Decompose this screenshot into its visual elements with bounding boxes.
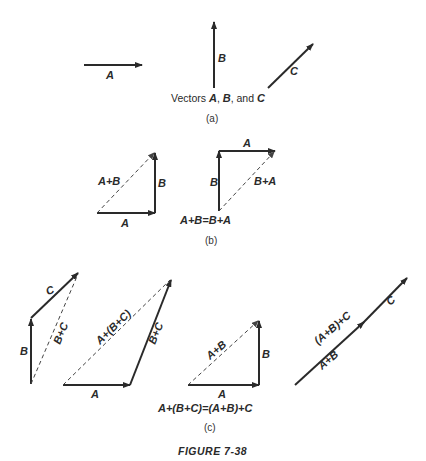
vector-b-label: B	[218, 52, 226, 64]
b-right-b-label: B	[210, 176, 218, 188]
panel-b-equation: A+B=B+A	[179, 214, 231, 226]
vector-a-label: A	[105, 69, 114, 81]
c4-c-label: C	[384, 293, 399, 308]
b-right-sum-label: B+A	[254, 175, 276, 187]
b-left-b-label: B	[158, 177, 166, 189]
c2-a-label: A	[90, 388, 99, 400]
c3-a-label: A	[217, 388, 226, 400]
vector-addition-figure: A B C Vectors A, B, and C (a) A B A+B A …	[0, 0, 426, 461]
c1-b-label: B	[20, 345, 28, 357]
c3-sum-label: A+B	[203, 338, 229, 362]
panel-a-caption: Vectors A, B, and C	[171, 92, 266, 104]
figure-title: FIGURE 7-38	[178, 445, 247, 457]
panel-a-label: (a)	[206, 113, 218, 124]
b-right-a-label: A	[242, 137, 251, 149]
c1-sum-label: B+C	[51, 320, 71, 346]
c2-bc-label: B+C	[146, 320, 166, 346]
c4-sum-label: (A+B)+C	[312, 308, 354, 346]
panel-b: A B A+B A B B+A A+B=B+A (b)	[97, 137, 276, 246]
panel-c-equation: A+(B+C)=(A+B)+C	[157, 402, 253, 414]
panel-c: B C B+C A B+C A+(B+C) A B A+B A+B (A+B)+…	[20, 273, 407, 433]
vector-c-label: C	[290, 65, 299, 77]
c2-sum-label: A+(B+C)	[92, 307, 133, 347]
c4-vector-c	[362, 278, 407, 324]
panel-c-label: (c)	[204, 422, 216, 433]
c4-ab-label: A+B	[315, 348, 341, 372]
c3-b-label: B	[262, 348, 270, 360]
c1-vector-c	[31, 273, 78, 318]
c1-sum-dashed	[31, 274, 78, 384]
c3-sum-dashed	[188, 321, 258, 385]
panel-a: A B C Vectors A, B, and C (a)	[84, 22, 313, 124]
b-left-sum-label: A+B	[97, 175, 120, 187]
panel-b-label: (b)	[205, 235, 217, 246]
b-left-a-label: A	[120, 217, 129, 229]
